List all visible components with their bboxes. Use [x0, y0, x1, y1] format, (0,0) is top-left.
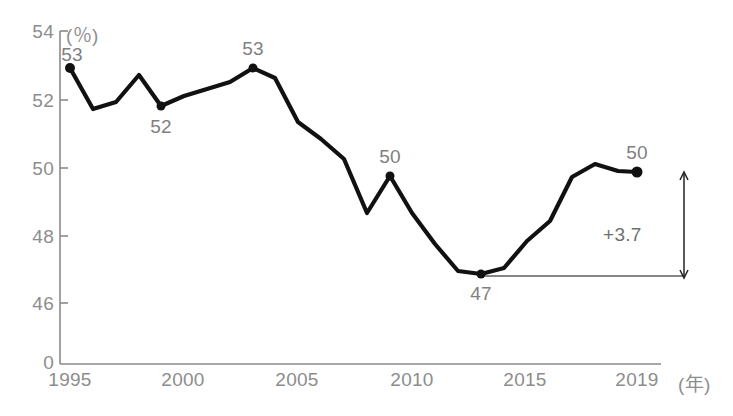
- y-tick-label-48: 48: [24, 226, 54, 248]
- marker-2003: [249, 64, 258, 73]
- point-label-2009: 50: [373, 146, 407, 168]
- x-tick-label-2015: 2015: [488, 369, 562, 391]
- marker-1999: [157, 102, 166, 111]
- x-tick-label-2000: 2000: [146, 369, 220, 391]
- data-series-line: [70, 68, 637, 274]
- y-tick-label-46: 46: [24, 293, 54, 315]
- line-chart: 54 52 50 48 46 0 (％) 1995 2000 2005 2010…: [0, 0, 733, 416]
- point-label-2013: 47: [464, 283, 498, 305]
- chart-canvas: [0, 0, 733, 416]
- y-axis-unit-label: (％): [66, 20, 99, 47]
- delta-annotation-label: +3.7: [603, 224, 642, 246]
- point-label-1995: 53: [55, 44, 89, 66]
- y-tick-label-52: 52: [24, 90, 54, 112]
- y-tick-label-50: 50: [24, 158, 54, 180]
- marker-2019: [632, 167, 643, 178]
- point-label-1999: 52: [144, 116, 178, 138]
- y-tick-label-54: 54: [24, 21, 54, 43]
- x-tick-label-2019: 2019: [600, 369, 674, 391]
- marker-2009: [386, 172, 395, 181]
- marker-2013: [477, 270, 486, 279]
- delta-annotation-marks: [481, 172, 688, 278]
- point-label-2019: 50: [620, 142, 654, 164]
- x-tick-label-2005: 2005: [260, 369, 334, 391]
- x-tick-label-2010: 2010: [375, 369, 449, 391]
- point-label-2003: 53: [236, 38, 270, 60]
- x-axis-unit-label: (年): [678, 369, 711, 396]
- x-tick-label-1995: 1995: [33, 369, 107, 391]
